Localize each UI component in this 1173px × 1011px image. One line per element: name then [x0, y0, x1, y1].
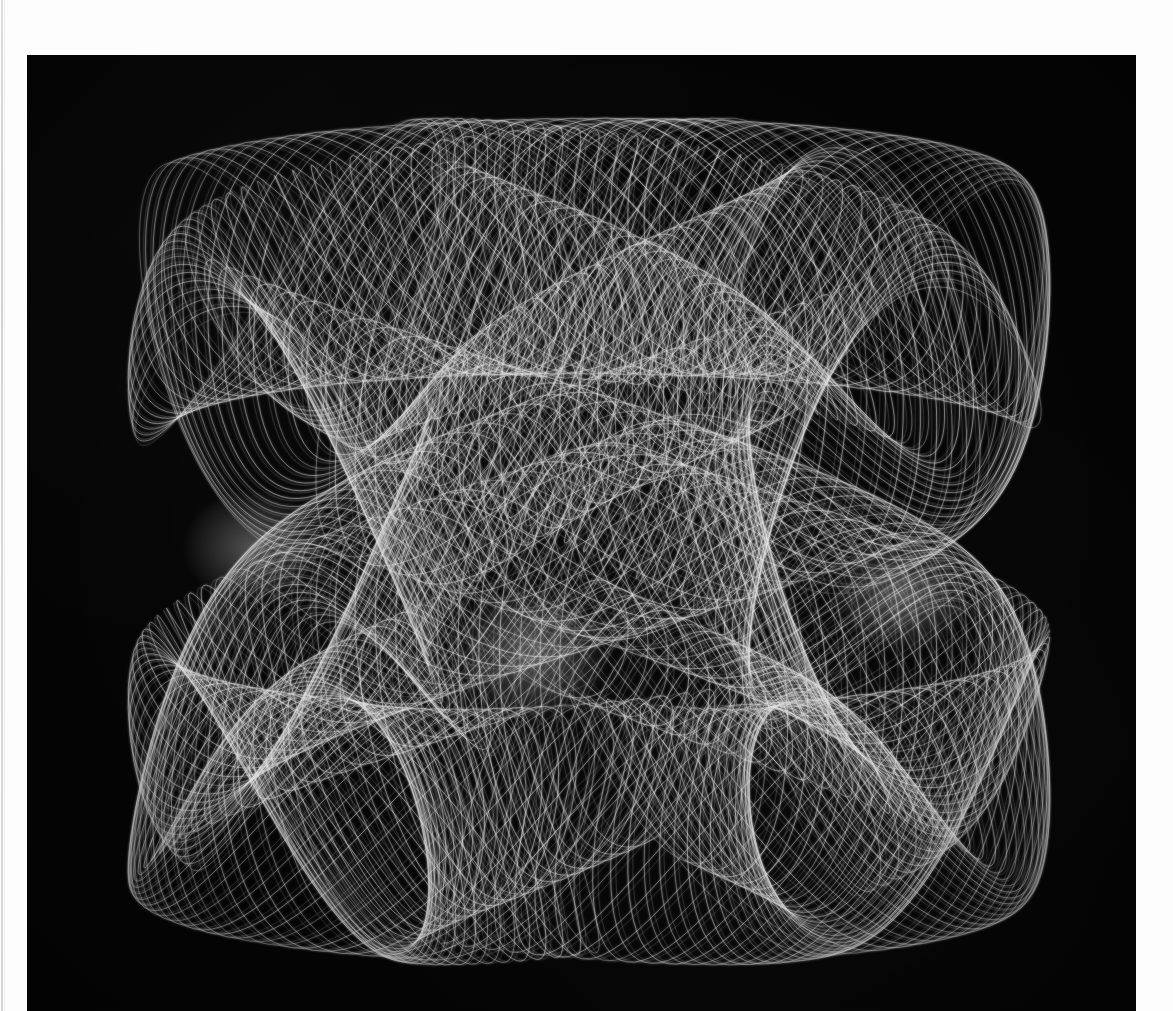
harmonograph-figure [27, 55, 1136, 1011]
page-margin-rule [1, 0, 3, 1011]
page-margin-rule-2 [4, 0, 5, 1011]
page-canvas [0, 0, 1173, 1011]
figure-plate [27, 55, 1136, 1011]
